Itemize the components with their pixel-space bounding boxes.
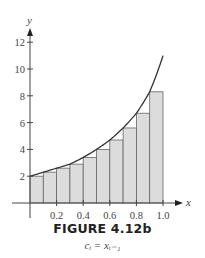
x-tick-label: 0.6 (103, 210, 116, 220)
x-tick-label: 0.2 (50, 210, 63, 220)
rectangles (30, 92, 163, 203)
y-tick-label: 2 (20, 171, 25, 182)
figure-caption: cᵢ = xᵢ₋₁ (0, 239, 205, 252)
y-tick-label: 12 (15, 37, 26, 48)
bar (43, 172, 56, 203)
bar (57, 168, 70, 203)
y-tick-label: 6 (20, 118, 25, 129)
x-tick-label: 1.0 (156, 210, 169, 220)
y-axis-arrow-icon (27, 28, 33, 36)
x-axis-arrow-icon (175, 200, 183, 206)
y-tick-label: 8 (20, 91, 25, 102)
bar (97, 149, 110, 203)
bar (83, 157, 96, 203)
bar (110, 140, 123, 203)
x-axis-label: x (185, 196, 191, 208)
bar (70, 164, 83, 203)
figure-title: FIGURE 4.12b (0, 221, 205, 236)
bar (123, 128, 136, 203)
riemann-sum-chart: xy0.20.40.60.81.024681012 (0, 0, 205, 220)
y-tick-label: 4 (20, 144, 26, 155)
y-tick-label: 10 (15, 64, 26, 75)
bar (30, 176, 43, 203)
x-tick-label: 0.4 (77, 210, 91, 220)
bar (136, 113, 149, 203)
y-axis-label: y (26, 14, 32, 26)
bar (150, 92, 163, 203)
x-tick-label: 0.8 (130, 210, 143, 220)
